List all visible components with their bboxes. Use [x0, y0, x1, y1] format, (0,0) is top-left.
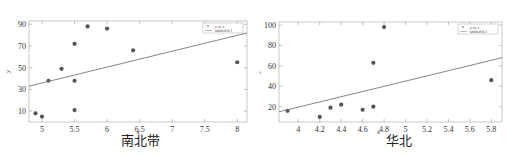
plot-frame [279, 22, 502, 122]
legend-label: untitled fit 1 [215, 29, 233, 33]
fit-line [279, 58, 502, 112]
data-point [59, 67, 63, 71]
legend-marker-icon [462, 26, 464, 28]
chart-title-huabei: 华北 [359, 130, 439, 149]
data-point [489, 78, 493, 82]
data-point [72, 79, 76, 83]
data-point [33, 111, 37, 115]
y-tick-label: 40 [268, 82, 276, 91]
y-tick-label: 30 [18, 85, 26, 94]
legend: y vs. xuntitled fit 1 [458, 24, 498, 34]
y-tick-label: 80 [268, 41, 276, 50]
x-tick-label: 8 [235, 125, 239, 134]
data-point [318, 115, 322, 119]
x-tick-label: 5 [40, 125, 44, 134]
chart-title-nanbeidai: 南北带 [100, 130, 180, 149]
y-axis-label: y [4, 69, 12, 74]
data-point [40, 114, 44, 118]
fit-line [29, 33, 247, 86]
x-tick-label: 4 [296, 125, 300, 134]
y-tick-label: 50 [18, 64, 26, 73]
data-point [371, 105, 375, 109]
chart-panel-huabei: 44.24.44.64.855.25.45.65.820406080100xyy… [259, 0, 518, 157]
x-tick-label: 4.4 [336, 125, 346, 134]
x-tick-label: 7.5 [200, 125, 210, 134]
y-tick-label: 70 [18, 42, 26, 51]
data-point [72, 42, 76, 46]
y-tick-label: 90 [18, 20, 26, 29]
data-point [328, 106, 332, 110]
y-tick-label: 60 [268, 62, 276, 71]
data-point [131, 48, 135, 52]
y-tick-label: 20 [268, 103, 276, 112]
data-point [85, 24, 89, 28]
data-point [235, 60, 239, 64]
data-point [72, 108, 76, 112]
y-tick-label: 10 [18, 107, 26, 116]
x-tick-label: 5.4 [443, 125, 453, 134]
x-tick-label: 5.6 [465, 125, 475, 134]
y-axis-label: y [259, 70, 262, 75]
y-tick-label: 100 [264, 21, 276, 30]
chart-panel-nanbeidai: 55.566.577.581030507090xyy vs. xuntitled… [0, 0, 259, 157]
x-tick-label: 5.8 [486, 125, 496, 134]
data-point [382, 25, 386, 29]
data-point [105, 27, 109, 31]
x-tick-label: 4.2 [315, 125, 325, 134]
legend: y vs. xuntitled fit 1 [203, 23, 243, 33]
data-point [339, 103, 343, 107]
plot-frame [29, 21, 247, 122]
legend-label: untitled fit 1 [470, 30, 488, 34]
data-point [361, 108, 365, 112]
legend-marker-icon [207, 25, 209, 27]
x-tick-label: 5.5 [70, 125, 80, 134]
data-point [371, 61, 375, 65]
